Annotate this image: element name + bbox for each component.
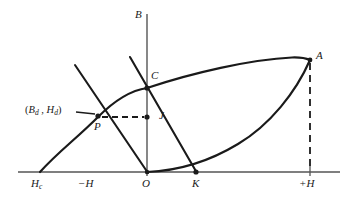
upper-hysteresis-branch bbox=[147, 57, 310, 88]
point-k-label: K bbox=[192, 178, 199, 189]
diagram-canvas bbox=[0, 0, 356, 202]
initial-magnetization-curve bbox=[147, 60, 310, 172]
point-a-marker bbox=[308, 58, 313, 63]
hysteresis-diagram-figure: B A C J P K O Hc −H +H (Bd , Hd) bbox=[0, 0, 356, 202]
positive-h-label: +H bbox=[299, 178, 314, 189]
coord-comma: , bbox=[39, 104, 47, 115]
point-p-marker bbox=[95, 113, 100, 118]
point-o-marker bbox=[145, 170, 149, 174]
point-k-marker bbox=[193, 169, 198, 174]
load-line bbox=[75, 65, 148, 173]
point-c-label: C bbox=[151, 70, 158, 81]
point-j-marker bbox=[144, 114, 149, 119]
point-j-label: J bbox=[159, 110, 164, 121]
point-c-marker bbox=[144, 85, 149, 90]
coercivity-subscript: c bbox=[39, 182, 42, 191]
b-axis-label: B bbox=[135, 9, 142, 20]
hd-symbol: H bbox=[47, 104, 55, 115]
point-p-label: P bbox=[94, 121, 101, 132]
negative-h-label: −H bbox=[78, 178, 93, 189]
paren-close: ) bbox=[58, 104, 62, 115]
coercivity-label: Hc bbox=[31, 178, 42, 190]
operating-point-label: (Bd , Hd) bbox=[25, 105, 61, 116]
point-a-label: A bbox=[316, 50, 323, 61]
coercivity-symbol: H bbox=[31, 177, 39, 189]
point-o-label: O bbox=[142, 178, 150, 189]
leader-line-to-p bbox=[76, 112, 95, 114]
